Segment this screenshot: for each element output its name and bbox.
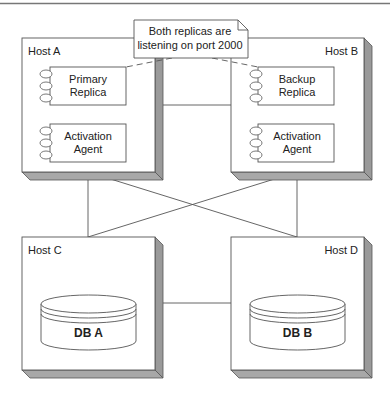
- host-b-shadow-bottom: [231, 172, 372, 180]
- database-b-icon: [250, 295, 345, 350]
- database-b-label: DB B: [283, 326, 313, 340]
- note-line1: Both replicas are: [149, 25, 232, 37]
- activation-agent-b-line2: Agent: [283, 143, 312, 155]
- primary-replica-line1: Primary: [69, 73, 107, 85]
- activation-agent-a-line1: Activation: [64, 130, 112, 142]
- activation-agent-a-line2: Agent: [74, 143, 103, 155]
- activation-agent-b-component: Activation Agent: [250, 124, 334, 162]
- host-a-shadow-right: [155, 38, 163, 180]
- host-b-shadow-right: [364, 38, 372, 180]
- database-a-label: DB A: [74, 326, 103, 340]
- note-line2: listening on port 2000: [137, 39, 242, 51]
- component-icon: [250, 127, 262, 159]
- host-d-shadow-bottom: [231, 370, 372, 378]
- primary-replica-component: Primary Replica: [40, 67, 126, 105]
- primary-replica-line2: Replica: [70, 86, 108, 98]
- host-a-node: Host A Primary Replica Activation Agent: [22, 38, 163, 180]
- component-icon: [250, 70, 262, 102]
- backup-replica-line2: Replica: [279, 86, 317, 98]
- activation-agent-a-component: Activation Agent: [40, 124, 126, 162]
- host-a-label: Host A: [28, 45, 61, 57]
- host-c-node: Host C DB A: [22, 237, 163, 378]
- host-d-shadow-right: [364, 237, 372, 378]
- host-c-label: Host C: [28, 244, 62, 256]
- note: Both replicas are listening on port 2000: [134, 20, 248, 58]
- host-a-shadow-bottom: [22, 172, 163, 180]
- database-a-icon: [41, 295, 136, 350]
- component-icon: [40, 127, 52, 159]
- host-b-label: Host B: [325, 45, 358, 57]
- deployment-diagram: Host A Primary Replica Activation Agent: [0, 0, 390, 395]
- activation-agent-b-line1: Activation: [273, 130, 321, 142]
- host-c-shadow-right: [155, 237, 163, 378]
- host-b-node: Host B Backup Replica Activation Agent: [231, 38, 372, 180]
- host-d-label: Host D: [324, 244, 358, 256]
- backup-replica-line1: Backup: [279, 73, 316, 85]
- backup-replica-component: Backup Replica: [250, 67, 334, 105]
- host-d-node: Host D DB B: [231, 237, 372, 378]
- host-c-shadow-bottom: [22, 370, 163, 378]
- component-icon: [40, 70, 52, 102]
